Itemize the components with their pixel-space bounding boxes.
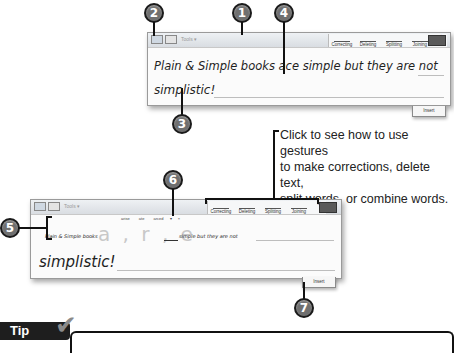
callout-4: 4 [274, 3, 294, 23]
gesture-correcting-button[interactable]: Correcting [329, 34, 355, 47]
join-gesture-icon [412, 35, 428, 42]
gesture-splitting-button[interactable]: Splitting [260, 201, 286, 214]
writing-pad-button[interactable] [48, 202, 60, 211]
callout-2: 2 [144, 3, 164, 23]
writing-pad-button[interactable] [165, 35, 177, 44]
alternate-arise[interactable]: arise [121, 216, 130, 221]
gesture-help-bar: Correcting Deleting Splitting Joining ✓ [207, 201, 326, 214]
gesture-splitting-button[interactable]: Splitting [381, 34, 407, 47]
keyboard-toggle-button[interactable] [151, 35, 163, 44]
callout-5-bracket-bottom [46, 238, 52, 240]
correct-gesture-icon [213, 202, 229, 209]
gesture-help-note: Click to see how to use gestures to make… [280, 127, 453, 207]
callout-7-line [303, 282, 305, 299]
alternates-more-icon[interactable]: ▾ [170, 216, 172, 221]
join-gesture-icon [291, 202, 307, 209]
callout-1-line [241, 22, 243, 35]
callout-1: 1 [232, 3, 252, 23]
callout-5: 5 [0, 218, 20, 238]
alternate-arced[interactable]: arced [153, 216, 163, 221]
writing-line-2 [214, 97, 444, 98]
gesture-deleting-button[interactable]: Deleting [355, 34, 381, 47]
callout-3: 3 [172, 114, 192, 134]
alternates-list: arise ate arced ▾ × [121, 216, 180, 221]
gesture-bracket-right [317, 198, 319, 204]
alternate-ate[interactable]: ate [139, 216, 145, 221]
panel-toolbar: Tools ▾ Correcting Deleting Splitting Jo… [148, 33, 450, 48]
handwriting-line-2: simplistic! [154, 83, 215, 97]
insert-button[interactable]: Insert [302, 277, 336, 288]
keyboard-toggle-button[interactable] [34, 202, 46, 211]
gesture-joining-button[interactable]: Joining [286, 201, 312, 214]
writing-line-1 [256, 240, 334, 241]
callout-2-line [153, 22, 155, 36]
tools-menu[interactable]: Tools ▾ [64, 203, 80, 209]
callout-4-line [283, 22, 285, 74]
callout-5-line [18, 227, 46, 229]
gesture-bracket-left [205, 198, 207, 204]
split-gesture-icon [265, 202, 281, 209]
delete-word-icon[interactable]: × [178, 216, 180, 221]
panel-toolbar: Tools ▾ Correcting Deleting Splitting Jo… [31, 200, 341, 215]
tools-menu[interactable]: Tools ▾ [181, 36, 197, 42]
callout-3-line [181, 88, 183, 116]
writing-line-1 [418, 75, 444, 76]
split-gesture-icon [386, 35, 402, 42]
insert-button[interactable]: Insert [412, 106, 446, 117]
delete-gesture-icon [360, 35, 376, 42]
callout-7: 7 [294, 298, 314, 318]
gesture-bracket [205, 198, 319, 200]
handwriting-suffix: simple but they are not [179, 233, 238, 239]
writing-line-2 [117, 270, 335, 271]
input-panel-bottom: Tools ▾ Correcting Deleting Splitting Jo… [30, 199, 342, 279]
handwriting-line-2: simplistic! [39, 253, 116, 271]
correction-underline [164, 240, 178, 241]
input-panel-top: Tools ▾ Correcting Deleting Splitting Jo… [147, 32, 451, 106]
correct-gesture-icon [334, 35, 350, 42]
close-button[interactable] [319, 202, 337, 213]
gesture-correcting-button[interactable]: Correcting [208, 201, 234, 214]
delete-gesture-icon [239, 202, 255, 209]
tip-box [70, 331, 454, 353]
callout-5-bracket [46, 216, 48, 240]
callout-6-line [172, 189, 174, 216]
handwriting-prefix: Plain & Simple books [45, 233, 98, 239]
close-button[interactable] [428, 35, 446, 46]
callout-6: 6 [163, 170, 183, 190]
gesture-deleting-button[interactable]: Deleting [234, 201, 260, 214]
callout-5-bracket-top [46, 216, 52, 218]
note-bracket-line [273, 130, 275, 200]
handwriting-line-1: Plain & Simple books ace simple but they… [154, 59, 438, 73]
